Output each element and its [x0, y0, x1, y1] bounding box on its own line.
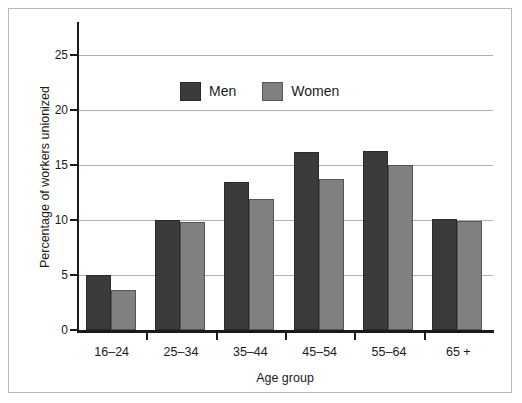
x-tick-label: 45–54	[285, 345, 354, 359]
plot-area: Men Women	[77, 22, 493, 330]
gridline	[77, 275, 493, 276]
bar-men	[363, 151, 388, 330]
bar-men	[294, 152, 319, 330]
y-tick-label: 5	[18, 269, 68, 281]
legend-swatch-women-icon	[262, 82, 283, 101]
chart-legend: Men Women	[180, 80, 365, 102]
y-axis-title: Percentage of workers unionized	[38, 57, 52, 297]
x-tick-label: 16–24	[77, 345, 146, 359]
y-tick-label-container: 0	[0, 324, 68, 336]
legend-item-women: Women	[262, 82, 365, 101]
x-tick-label: 65 +	[424, 345, 493, 359]
bar-women	[249, 199, 274, 330]
gridline	[77, 220, 493, 221]
legend-item-men: Men	[180, 82, 262, 101]
bar-women	[319, 179, 344, 330]
chart-figure: Percentage of workers unionized Men Wome…	[0, 0, 522, 403]
y-tick-label: 15	[18, 159, 68, 171]
gridline	[77, 55, 493, 56]
y-tick-mark	[70, 164, 78, 166]
x-tick-label: 25–34	[146, 345, 215, 359]
x-tick-mark	[354, 333, 356, 340]
y-tick-mark	[70, 54, 78, 56]
x-tick-mark	[285, 333, 287, 340]
y-tick-mark	[70, 329, 78, 331]
y-tick-mark	[70, 109, 78, 111]
legend-label-men: Men	[209, 83, 236, 99]
gridline	[77, 165, 493, 166]
x-tick-label: 55–64	[354, 345, 423, 359]
y-axis-line	[77, 22, 79, 331]
y-tick-label: 20	[18, 104, 68, 116]
gridline	[77, 110, 493, 111]
x-axis-title: Age group	[77, 371, 493, 385]
bar-women	[457, 221, 482, 330]
x-tick-mark	[216, 333, 218, 340]
y-tick-label-container: 15	[0, 159, 68, 171]
y-tick-label: 10	[18, 214, 68, 226]
x-tick-mark	[424, 333, 426, 340]
y-tick-label-container: 5	[0, 269, 68, 281]
bar-women	[111, 290, 136, 330]
legend-label-women: Women	[291, 83, 339, 99]
bar-men	[86, 275, 111, 330]
y-tick-label-container: 25	[0, 49, 68, 61]
y-tick-label: 0	[18, 324, 68, 336]
legend-swatch-men-icon	[180, 82, 201, 101]
y-tick-label-container: 20	[0, 104, 68, 116]
y-tick-mark	[70, 274, 78, 276]
y-tick-mark	[70, 219, 78, 221]
y-tick-label-container: 10	[0, 214, 68, 226]
x-tick-mark	[146, 333, 148, 340]
bar-men	[224, 182, 249, 331]
bar-women	[180, 222, 205, 330]
bar-men	[432, 219, 457, 330]
x-tick-label: 35–44	[216, 345, 285, 359]
bar-men	[155, 220, 180, 330]
bar-women	[388, 165, 413, 330]
y-tick-label: 25	[18, 49, 68, 61]
